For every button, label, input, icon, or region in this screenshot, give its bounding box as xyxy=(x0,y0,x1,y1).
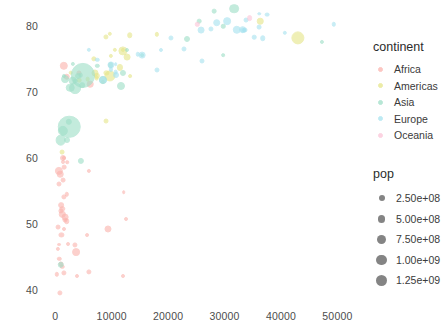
x-axis-tick-label: 40000 xyxy=(266,310,296,322)
data-point xyxy=(58,202,64,208)
scatter-plot-figure: 4050607080 01000020000300004000050000 co… xyxy=(0,0,447,336)
data-point xyxy=(120,70,126,76)
data-point xyxy=(332,22,336,26)
data-point xyxy=(60,150,65,155)
data-point xyxy=(66,242,70,246)
legend-size-label: 5.00e+08 xyxy=(396,213,440,225)
legend-item-europe[interactable]: Europe xyxy=(373,111,438,128)
data-point xyxy=(109,53,113,57)
legend-size-item[interactable]: 2.50e+08 xyxy=(373,188,440,209)
data-point xyxy=(75,274,79,278)
legend-size-item[interactable]: 7.50e+08 xyxy=(373,229,440,250)
data-point xyxy=(212,9,217,14)
data-point xyxy=(62,165,67,170)
legend-size-item[interactable]: 5.00e+08 xyxy=(373,209,440,230)
legend-size-item[interactable]: 1.00e+09 xyxy=(373,250,440,271)
data-point xyxy=(86,270,91,275)
legend-item-asia[interactable]: Asia xyxy=(373,94,438,111)
data-point xyxy=(73,242,78,247)
data-point xyxy=(213,19,221,27)
data-point xyxy=(62,214,69,221)
data-point xyxy=(80,82,86,88)
data-point xyxy=(113,72,119,78)
data-point xyxy=(258,12,262,16)
data-point xyxy=(65,192,69,196)
data-point xyxy=(64,137,70,143)
data-point xyxy=(77,158,83,164)
data-point xyxy=(127,32,133,38)
legend-size-swatch xyxy=(373,188,390,208)
data-point xyxy=(56,182,61,187)
data-point xyxy=(222,53,226,57)
data-point xyxy=(87,169,91,173)
data-point xyxy=(85,233,89,237)
data-point xyxy=(62,270,67,275)
legend-continent-title: continent xyxy=(373,40,438,54)
data-point xyxy=(155,32,159,36)
y-axis-tick-label: 40 xyxy=(26,284,38,296)
legend-item-label: Oceania xyxy=(394,129,433,141)
legend-continent: continent AfricaAmericasAsiaEuropeOceani… xyxy=(373,40,438,144)
data-point xyxy=(154,68,159,73)
legend-key-swatch xyxy=(373,62,388,77)
legend-size-swatch xyxy=(373,270,390,290)
data-point xyxy=(223,17,231,25)
data-point xyxy=(107,61,114,68)
data-point xyxy=(57,243,61,247)
data-point xyxy=(103,34,108,39)
data-point xyxy=(113,47,117,51)
data-point xyxy=(108,32,112,36)
data-point xyxy=(291,31,304,44)
data-point xyxy=(168,36,173,41)
data-point xyxy=(200,58,205,63)
legend-size-label: 1.00e+09 xyxy=(396,254,440,266)
data-point xyxy=(182,46,187,51)
data-point xyxy=(283,31,287,35)
x-axis: 01000020000300004000050000 xyxy=(44,300,360,330)
data-point xyxy=(257,25,262,30)
data-point xyxy=(65,160,69,164)
data-point xyxy=(99,76,107,84)
data-point xyxy=(95,64,99,68)
data-point xyxy=(72,249,80,257)
data-point xyxy=(104,225,111,232)
legend-key-swatch xyxy=(373,111,388,126)
data-point xyxy=(61,177,66,182)
legend-item-africa[interactable]: Africa xyxy=(373,61,438,78)
data-point xyxy=(122,190,126,194)
data-point xyxy=(59,233,64,238)
legend-size-label: 2.50e+08 xyxy=(396,192,440,204)
y-axis-tick-label: 50 xyxy=(26,218,38,230)
legend-pop-title: pop xyxy=(373,167,440,181)
data-point xyxy=(320,40,324,44)
y-axis-tick-label: 70 xyxy=(26,86,38,98)
legend-size-swatch xyxy=(373,229,390,249)
plot-panel xyxy=(44,6,360,300)
data-point xyxy=(252,35,257,40)
data-point xyxy=(257,18,264,25)
data-point xyxy=(121,274,125,278)
data-point xyxy=(60,62,68,70)
data-point xyxy=(239,26,247,34)
legend-continent-items: AfricaAmericasAsiaEuropeOceania xyxy=(373,61,438,144)
legend-item-oceania[interactable]: Oceania xyxy=(373,127,438,144)
data-point xyxy=(229,4,239,14)
legend-size-swatch xyxy=(373,250,390,270)
data-point xyxy=(265,12,270,17)
legend-key-swatch xyxy=(373,128,388,143)
data-point xyxy=(184,36,190,42)
legend-item-label: Americas xyxy=(394,80,438,92)
data-point xyxy=(208,27,213,32)
legend-pop-items: 2.50e+085.00e+087.50e+081.00e+091.25e+09 xyxy=(373,188,440,291)
data-point xyxy=(117,82,125,90)
legend-size-item[interactable]: 1.25e+09 xyxy=(373,270,440,291)
legend-key-swatch xyxy=(373,95,388,110)
legend-item-americas[interactable]: Americas xyxy=(373,78,438,95)
x-axis-tick-label: 50000 xyxy=(322,310,352,322)
data-point xyxy=(75,73,81,79)
data-point xyxy=(87,47,91,51)
x-axis-tick-label: 0 xyxy=(52,310,58,322)
data-point xyxy=(159,48,163,52)
data-point xyxy=(260,36,266,42)
legend-pop: pop 2.50e+085.00e+087.50e+081.00e+091.25… xyxy=(373,167,440,291)
